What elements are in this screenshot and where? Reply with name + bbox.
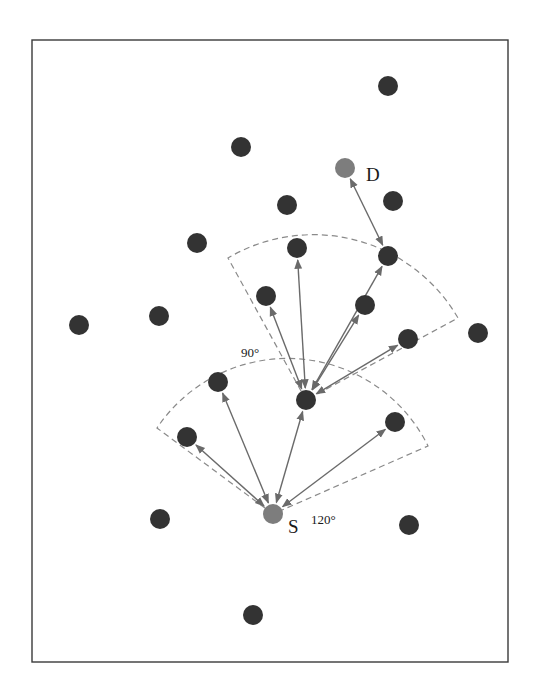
link-arrow	[312, 315, 358, 390]
network-node	[398, 329, 418, 349]
network-node	[378, 76, 398, 96]
network-diagram: S D 120° 90°	[0, 0, 538, 695]
network-node	[231, 137, 251, 157]
diagram-frame	[32, 40, 508, 662]
destination-node	[335, 158, 355, 178]
network-node	[468, 323, 488, 343]
source-label: S	[288, 516, 299, 537]
link-arrow	[223, 393, 269, 503]
network-node	[296, 390, 316, 410]
network-node	[150, 509, 170, 529]
network-node	[399, 515, 419, 535]
network-node	[355, 295, 375, 315]
link-group	[196, 179, 398, 507]
link-arrow	[316, 345, 397, 394]
network-node	[385, 412, 405, 432]
network-node	[208, 372, 228, 392]
destination-label: D	[366, 164, 380, 185]
network-node	[378, 246, 398, 266]
network-node	[243, 605, 263, 625]
sector-angle-90-label: 90°	[241, 345, 259, 360]
link-arrow	[270, 307, 301, 389]
link-arrow	[283, 429, 386, 507]
link-arrow	[350, 179, 382, 245]
network-node	[287, 238, 307, 258]
sector-120-deg	[157, 358, 428, 514]
node-group	[69, 76, 488, 625]
network-node	[149, 306, 169, 326]
network-node	[277, 195, 297, 215]
sector-90-deg	[228, 235, 458, 400]
sector-group	[157, 235, 458, 514]
source-node	[263, 504, 283, 524]
network-node	[256, 286, 276, 306]
sector-angle-120-label: 120°	[311, 512, 336, 527]
link-arrow	[312, 266, 382, 389]
link-arrow	[276, 412, 302, 503]
network-node	[177, 427, 197, 447]
network-node	[383, 191, 403, 211]
network-node	[187, 233, 207, 253]
link-arrow	[196, 445, 264, 506]
network-node	[69, 315, 89, 335]
link-arrow	[298, 260, 306, 388]
